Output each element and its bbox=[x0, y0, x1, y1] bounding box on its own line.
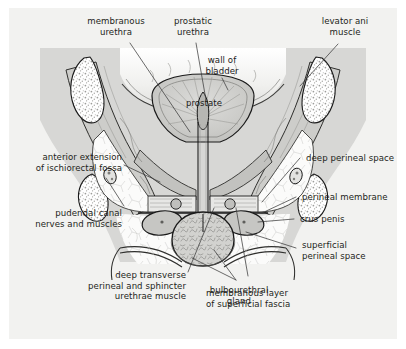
leader-ischiorectal-fossa bbox=[124, 165, 160, 182]
label-membranous-urethra: membranous urethra bbox=[70, 16, 162, 37]
leader-levator-ani bbox=[300, 44, 338, 86]
leader-pudendal-canal bbox=[106, 178, 124, 206]
label-anterior-extension-ischiorectal-fossa: anterior extension of ischiorectal fossa bbox=[18, 152, 122, 173]
leader-perineal-membrane bbox=[262, 197, 296, 213]
leader-membranous-urethra bbox=[130, 43, 190, 132]
label-superficial-perineal-space: superficial perineal space bbox=[302, 240, 390, 261]
leader-deep-perineal-space bbox=[262, 158, 300, 202]
label-prostatic-urethra: prostatic urethra bbox=[152, 16, 234, 37]
label-deep-transverse-perineal-muscle: deep transverse perineal and sphincter u… bbox=[54, 270, 186, 302]
label-wall-of-bladder: wall of bladder bbox=[186, 55, 258, 76]
label-pudendal-canal: pudendal canal nerves and muscles bbox=[14, 208, 122, 229]
label-prostate: prostate bbox=[178, 98, 230, 109]
leader-bulbourethral-gland bbox=[236, 208, 248, 276]
leader-superficial-perineal-space bbox=[246, 232, 296, 248]
leader-colles-fascia-b bbox=[192, 258, 236, 280]
leader-crus-penis bbox=[258, 219, 294, 222]
anatomy-figure: membranous urethra prostatic urethra lev… bbox=[0, 0, 406, 349]
label-deep-perineal-space: deep perineal space bbox=[306, 153, 402, 164]
label-crus-penis: crus penis bbox=[300, 214, 380, 225]
label-perineal-membrane: perineal membrane bbox=[302, 192, 398, 203]
label-membranous-layer-superficial-fascia: membranous layer of superficial fascia bbox=[206, 288, 316, 309]
leader-wall-of-bladder bbox=[222, 78, 228, 90]
leader-colles-fascia-a bbox=[214, 250, 236, 280]
label-levator-ani-muscle: levator ani muscle bbox=[304, 16, 386, 37]
